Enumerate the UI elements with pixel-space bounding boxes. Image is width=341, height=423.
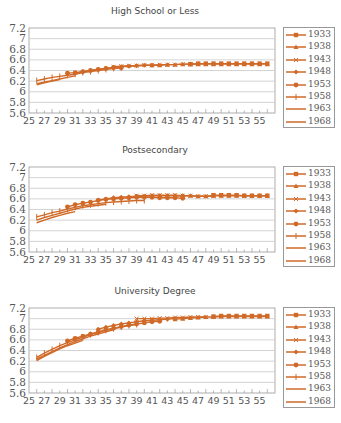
y-tick-label: 5.8 xyxy=(9,96,26,108)
legend-swatch-icon xyxy=(286,257,306,265)
circle-marker-icon xyxy=(157,319,162,324)
square-marker-icon xyxy=(294,172,298,176)
x-tick-label: 43 xyxy=(161,254,173,265)
legend-label: 1938 xyxy=(308,179,331,191)
legend-swatch-icon xyxy=(286,68,306,76)
x-tick-label: 33 xyxy=(84,254,96,265)
panel-university: University Degree 5.65.866.26.46.66.877.… xyxy=(0,280,341,420)
legend-label: 1963 xyxy=(308,382,331,394)
legend-label: 1963 xyxy=(308,241,331,253)
legend-swatch-icon xyxy=(286,43,306,51)
legend-item-1968: 1968 xyxy=(284,395,334,407)
y-tick-label: 6.2 xyxy=(9,214,26,226)
x-tick-label: 31 xyxy=(69,254,81,265)
legend-swatch-icon xyxy=(286,118,306,126)
legend-swatch-icon xyxy=(286,336,306,344)
circle-marker-icon xyxy=(294,221,299,226)
legend-label: 1938 xyxy=(308,40,331,52)
y-tick-label: 6 xyxy=(19,85,26,97)
legend-item-1938: 1938 xyxy=(284,320,334,332)
legend-label: 1943 xyxy=(308,333,331,345)
legend-label: 1968 xyxy=(308,395,331,407)
x-tick-label: 31 xyxy=(69,395,81,406)
x-tick-label: 37 xyxy=(115,395,127,406)
legend-label: 1958 xyxy=(308,90,331,102)
x-tick-label: 39 xyxy=(131,115,143,126)
x-tick-label: 29 xyxy=(54,115,66,126)
y-tick-label: 6.8 xyxy=(9,43,26,55)
legend-label: 1958 xyxy=(308,370,331,382)
legend-item-1948: 1948 xyxy=(284,345,334,357)
square-marker-icon xyxy=(294,33,298,37)
legend-item-1933: 1933 xyxy=(284,167,334,179)
legend-label: 1938 xyxy=(308,320,331,332)
legend-label: 1933 xyxy=(308,308,331,320)
legend-item-1948: 1948 xyxy=(284,204,334,216)
x-tick-label: 55 xyxy=(254,254,266,265)
x-tick-label: 53 xyxy=(238,115,250,126)
legend-item-1958: 1958 xyxy=(284,90,334,102)
y-tick-label: 7.2 xyxy=(9,302,26,314)
legend-swatch-icon xyxy=(286,232,306,240)
x-tick-label: 49 xyxy=(207,254,219,265)
y-tick-label: 6.4 xyxy=(9,64,26,76)
legend-label: 1933 xyxy=(308,167,331,179)
legend-item-1958: 1958 xyxy=(284,229,334,241)
legend-item-1953: 1953 xyxy=(284,78,334,90)
x-tick-label: 47 xyxy=(192,395,204,406)
line-chart: 5.65.866.26.46.66.877.225272931333537394… xyxy=(0,139,283,279)
legend-swatch-icon xyxy=(286,105,306,113)
x-tick-label: 41 xyxy=(146,254,158,265)
legend-swatch-icon xyxy=(286,373,306,381)
x-tick-label: 29 xyxy=(54,395,66,406)
x-tick-label: 53 xyxy=(238,254,250,265)
legend-swatch-icon xyxy=(286,398,306,406)
y-tick-label: 7 xyxy=(19,32,26,44)
legend-swatch-icon xyxy=(286,195,306,203)
legend-swatch-icon xyxy=(286,361,306,369)
circle-marker-icon xyxy=(150,195,155,200)
x-tick-label: 41 xyxy=(146,395,158,406)
legend-item-1943: 1943 xyxy=(284,53,334,65)
legend-swatch-icon xyxy=(286,220,306,228)
x-tick-label: 41 xyxy=(146,115,158,126)
y-tick-label: 6.2 xyxy=(9,75,26,87)
legend: 19331938194319481953195819631968 xyxy=(283,27,335,128)
x-tick-label: 49 xyxy=(207,115,219,126)
x-tick-label: 39 xyxy=(131,395,143,406)
legend-item-1968: 1968 xyxy=(284,115,334,127)
y-tick-label: 6.6 xyxy=(9,333,26,345)
legend-label: 1958 xyxy=(308,229,331,241)
legend: 19331938194319481953195819631968 xyxy=(283,307,335,408)
x-tick-label: 33 xyxy=(84,115,96,126)
legend-item-1963: 1963 xyxy=(284,241,334,253)
x-tick-label: 35 xyxy=(100,395,112,406)
legend-item-1933: 1933 xyxy=(284,28,334,40)
x-tick-label: 51 xyxy=(223,115,235,126)
legend-swatch-icon xyxy=(286,93,306,101)
y-tick-label: 5.8 xyxy=(9,376,26,388)
square-marker-icon xyxy=(294,313,298,317)
x-tick-label: 43 xyxy=(161,115,173,126)
legend-label: 1968 xyxy=(308,254,331,266)
y-tick-label: 6 xyxy=(19,224,26,236)
x-tick-label: 39 xyxy=(131,254,143,265)
legend-swatch-icon xyxy=(286,31,306,39)
x-tick-label: 45 xyxy=(177,254,189,265)
x-tick-label: 51 xyxy=(223,254,235,265)
diamond-marker-icon xyxy=(294,70,299,75)
x-tick-label: 35 xyxy=(100,254,112,265)
legend-swatch-icon xyxy=(286,81,306,89)
y-tick-label: 7.2 xyxy=(9,161,26,173)
legend-swatch-icon xyxy=(286,348,306,356)
x-tick-label: 45 xyxy=(177,115,189,126)
legend-label: 1953 xyxy=(308,78,331,90)
legend-item-1938: 1938 xyxy=(284,40,334,52)
legend-item-1963: 1963 xyxy=(284,382,334,394)
legend-swatch-icon xyxy=(286,170,306,178)
legend-item-1938: 1938 xyxy=(284,179,334,191)
x-tick-label: 25 xyxy=(23,254,35,265)
line-chart: 5.65.866.26.46.66.877.225272931333537394… xyxy=(0,280,283,420)
y-tick-label: 7 xyxy=(19,171,26,183)
x-tick-label: 25 xyxy=(23,395,35,406)
